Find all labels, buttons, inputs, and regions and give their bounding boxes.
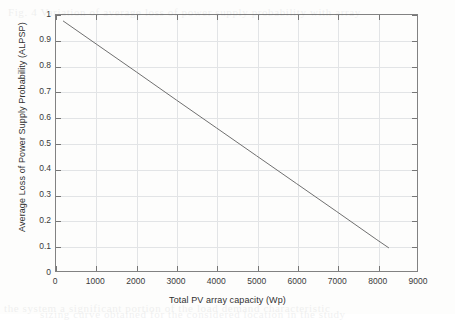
- y-tick-label: 0.7: [39, 87, 51, 96]
- x-axis-tick-labels: 0100020003000400050006000700080009000: [0, 277, 455, 289]
- x-axis-title: Total PV array capacity (Wp): [0, 295, 455, 305]
- x-tick-label: 2000: [126, 277, 145, 286]
- y-tick-label: 0.2: [39, 216, 51, 225]
- y-tick-label: 0.4: [39, 164, 51, 173]
- x-tick-label: 1000: [86, 277, 105, 286]
- plot-area: [55, 14, 418, 272]
- x-tick-label: 8000: [368, 277, 387, 286]
- x-tick-label: 9000: [409, 277, 428, 286]
- y-tick-label: 1: [46, 10, 51, 19]
- x-tick-label: 6000: [288, 277, 307, 286]
- x-tick-label: 4000: [207, 277, 226, 286]
- x-tick-label: 3000: [167, 277, 186, 286]
- x-tick-label: 7000: [328, 277, 347, 286]
- y-tick-label: 0.5: [39, 139, 51, 148]
- y-tick-label: 0.1: [39, 242, 51, 251]
- y-tick-label: 0.9: [39, 35, 51, 44]
- y-tick-label: 0.6: [39, 113, 51, 122]
- y-tick-label: 0.3: [39, 190, 51, 199]
- x-tick-label: 5000: [247, 277, 266, 286]
- data-series-line: [56, 15, 417, 271]
- y-axis-title: Average Loss of Power Supply Probability…: [17, 72, 27, 232]
- y-tick-label: 0.8: [39, 61, 51, 70]
- x-tick-label: 0: [53, 277, 58, 286]
- y-tick-label: 0: [46, 268, 51, 277]
